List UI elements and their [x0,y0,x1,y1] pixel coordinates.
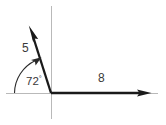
angle-value: 72 [26,75,39,87]
diagram-canvas: 5 8 72° [0,0,166,125]
degree-symbol: ° [39,73,42,82]
vector-8-label: 8 [98,71,105,85]
vector-diagram-figure: 5 8 72° [0,0,166,125]
vector-5-label: 5 [22,41,29,55]
angle-label: 72° [26,73,42,87]
vector-5-arrowhead [29,26,38,43]
